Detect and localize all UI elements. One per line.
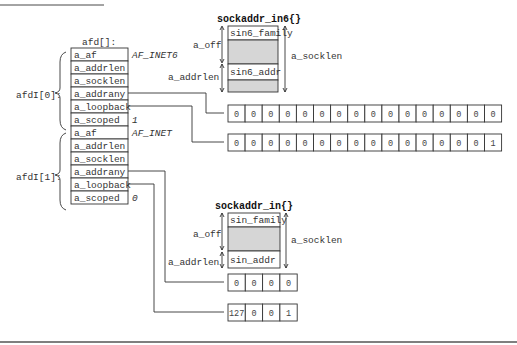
byte-value: 0 xyxy=(405,110,410,120)
inaddr-any-bytes: 0000 xyxy=(228,274,297,291)
sockaddr-in-title: sockaddr_in{} xyxy=(215,201,293,212)
byte-value: 0 xyxy=(319,139,324,149)
in-socklen-label: a_socklen xyxy=(291,235,342,246)
inaddr-loopback-bytes: 127001 xyxy=(228,304,297,321)
byte-value: 0 xyxy=(371,139,376,149)
byte-value: 0 xyxy=(388,110,393,120)
afd0-a_addrany-label: a_addrany xyxy=(74,89,126,100)
byte-value: 0 xyxy=(388,139,393,149)
byte-value: 127 xyxy=(229,309,244,319)
byte-value: 1 xyxy=(286,309,291,319)
byte-value: 0 xyxy=(422,110,427,120)
afd0-a_loopback-label: a_loopback xyxy=(74,102,131,113)
in-addrlen-label: a_addrlen xyxy=(168,257,219,268)
byte-value: 0 xyxy=(251,279,256,289)
afd1-scoped-value: 0 xyxy=(132,193,138,204)
byte-value: 0 xyxy=(234,110,239,120)
afd-title: afd[]: xyxy=(82,37,116,48)
byte-value: 0 xyxy=(286,279,291,289)
afd0-af-value: AF_INET6 xyxy=(131,50,178,61)
byte-value: 0 xyxy=(337,110,342,120)
in6-socklen-label: a_socklen xyxy=(291,51,342,62)
byte-value: 0 xyxy=(319,110,324,120)
byte-value: 0 xyxy=(354,139,359,149)
sin6-padding-field xyxy=(228,40,278,64)
byte-value: 0 xyxy=(268,110,273,120)
byte-value: 0 xyxy=(302,110,307,120)
byte-value: 0 xyxy=(251,110,256,120)
in-off-label: a_off xyxy=(193,229,222,240)
afd1-a_scoped-label: a_scoped xyxy=(74,193,120,204)
afd1-a_addrlen-label: a_addrlen xyxy=(74,141,125,152)
byte-value: 0 xyxy=(285,110,290,120)
diagram-canvas: afd[]: afdI[0]: afdI[1]: a_af a_addrlen … xyxy=(0,0,517,345)
byte-value: 0 xyxy=(456,110,461,120)
in6addr-loopback-bytes: 0000000000000001 xyxy=(228,134,502,151)
afd0-table: a_af a_addrlen a_socklen a_addrany a_loo… xyxy=(71,48,131,126)
sockaddr-in6-title: sockaddr_in6{} xyxy=(217,14,301,25)
afd0-addrany-pointer xyxy=(128,93,224,113)
afd0-a_scoped-label: a_scoped xyxy=(74,115,120,126)
afd1-loopback-pointer xyxy=(128,184,224,312)
afd0-a_addrlen-label: a_addrlen xyxy=(74,63,125,74)
byte-value: 0 xyxy=(490,110,495,120)
sin6-addr-label: sin6_addr xyxy=(230,67,281,78)
byte-value: 0 xyxy=(251,139,256,149)
byte-value: 0 xyxy=(371,110,376,120)
afd1-a_addrany-label: a_addrany xyxy=(74,167,126,178)
byte-value: 0 xyxy=(439,110,444,120)
afd1-a_socklen-label: a_socklen xyxy=(74,154,125,165)
sin-addr-label: sin_addr xyxy=(230,255,276,266)
byte-value: 0 xyxy=(268,139,273,149)
byte-value: 0 xyxy=(473,139,478,149)
byte-value: 0 xyxy=(234,139,239,149)
in6-off-label: a_off xyxy=(193,40,222,51)
byte-value: 0 xyxy=(269,309,274,319)
byte-value: 0 xyxy=(251,309,256,319)
afd1-af-value: AF_INET xyxy=(131,128,173,139)
afd0-a_af-label: a_af xyxy=(74,50,97,61)
byte-value: 0 xyxy=(337,139,342,149)
byte-value: 0 xyxy=(456,139,461,149)
byte-value: 0 xyxy=(354,110,359,120)
byte-value: 0 xyxy=(269,279,274,289)
byte-value: 0 xyxy=(285,139,290,149)
afd1-a_af-label: a_af xyxy=(74,128,97,139)
afd0-label: afdI[0]: xyxy=(16,90,62,101)
in6-addrlen-label: a_addrlen xyxy=(168,72,219,83)
afd1-label: afdI[1]: xyxy=(16,172,62,183)
in6addr-any-bytes: 0000000000000000 xyxy=(228,105,502,122)
byte-value: 0 xyxy=(405,139,410,149)
afd1-table: a_af a_addrlen a_socklen a_addrany a_loo… xyxy=(71,126,131,204)
sin-padding-field xyxy=(228,227,280,251)
sin6-tail-field xyxy=(228,80,278,92)
sin-family-label: sin_family xyxy=(230,215,287,226)
byte-value: 0 xyxy=(422,139,427,149)
afd1-a_loopback-label: a_loopback xyxy=(74,180,131,191)
afd0-scoped-value: 1 xyxy=(132,115,138,126)
afd0-a_socklen-label: a_socklen xyxy=(74,76,125,87)
byte-value: 0 xyxy=(234,279,239,289)
byte-value: 0 xyxy=(302,139,307,149)
byte-value: 0 xyxy=(439,139,444,149)
byte-value: 1 xyxy=(490,139,495,149)
byte-value: 0 xyxy=(473,110,478,120)
